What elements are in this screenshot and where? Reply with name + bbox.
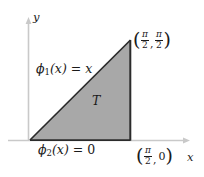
upper-boundary-label: ϕ1(x) = x <box>36 63 92 77</box>
phi1-argument: (x) <box>50 61 67 76</box>
base-x-denominator: 2 <box>144 157 152 167</box>
phi2-equals: = <box>73 142 83 157</box>
base-point-label: ( π 2 , 0 ) <box>136 146 173 166</box>
base-y-value: 0 <box>158 151 165 162</box>
base-x-fraction: π 2 <box>144 146 152 166</box>
phi1-symbol: ϕ <box>36 61 45 76</box>
base-open-paren: ( <box>136 146 143 165</box>
apex-y-fraction: π 2 <box>155 30 163 50</box>
y-axis-arrowhead <box>26 17 32 24</box>
phi2-expression: 0 <box>87 142 95 157</box>
figure-container: y x ϕ1(x) = x ϕ2(x) = 0 T ( π 2 , π 2 ) … <box>0 0 204 177</box>
phi1-expression: x <box>85 61 92 76</box>
base-comma: , <box>153 154 157 166</box>
region-label: T <box>92 95 100 108</box>
apex-y-numerator: π <box>155 30 163 40</box>
x-axis-arrowhead <box>183 138 190 144</box>
phi2-symbol: ϕ <box>38 142 47 157</box>
apex-comma: , <box>150 38 154 50</box>
apex-close-paren: ) <box>163 30 170 49</box>
apex-x-numerator: π <box>141 30 149 40</box>
figure-canvas <box>0 0 204 177</box>
phi2-argument: (x) <box>52 142 69 157</box>
apex-point-label: ( π 2 , π 2 ) <box>133 30 171 50</box>
lower-boundary-label: ϕ2(x) = 0 <box>38 144 95 158</box>
base-close-paren: ) <box>165 146 172 165</box>
x-axis-label: x <box>187 152 194 164</box>
apex-y-denominator: 2 <box>155 41 163 51</box>
apex-open-paren: ( <box>133 30 140 49</box>
base-x-numerator: π <box>144 146 152 156</box>
apex-x-denominator: 2 <box>141 41 149 51</box>
phi1-equals: = <box>71 61 81 76</box>
apex-x-fraction: π 2 <box>141 30 149 50</box>
y-axis-label: y <box>33 12 40 24</box>
